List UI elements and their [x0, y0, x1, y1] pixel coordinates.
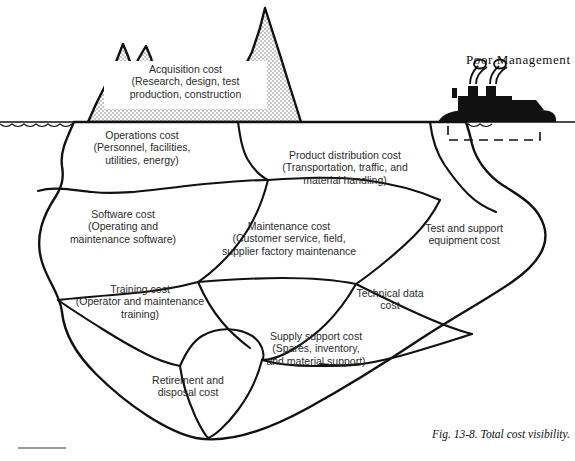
- figure-caption: Fig. 13-8. Total cost visibility.: [432, 428, 570, 440]
- figure-total-cost-visibility: Acquisition cost (Research, design, test…: [0, 0, 575, 461]
- iceberg-diagram-svg: [0, 0, 575, 461]
- iceberg-body: [39, 122, 545, 439]
- page-rule: [18, 447, 66, 449]
- acquisition-cost-box: [104, 61, 267, 109]
- poor-management-annotation: Poor Management: [466, 52, 571, 68]
